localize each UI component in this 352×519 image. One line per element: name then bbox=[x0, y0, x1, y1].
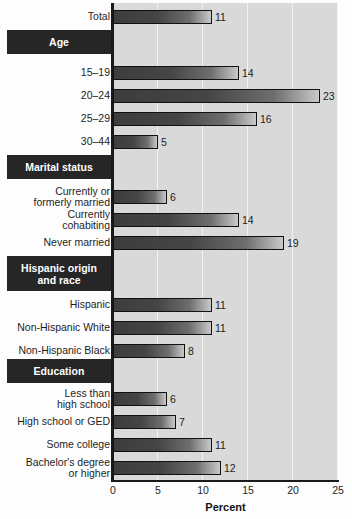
bar bbox=[113, 213, 239, 227]
category-label: Non-Hispanic Black bbox=[0, 345, 110, 357]
bar bbox=[113, 112, 257, 126]
bar-value-label: 12 bbox=[224, 461, 236, 475]
bar-value-label: 16 bbox=[260, 112, 272, 126]
section-header: Hispanic origin and race bbox=[7, 256, 111, 291]
bar-chart: Total11Age15–191420–242325–291630–445Mar… bbox=[0, 0, 352, 519]
bar-value-label: 14 bbox=[242, 66, 254, 80]
x-axis-tick-label: 0 bbox=[110, 484, 116, 496]
bar-value-label: 11 bbox=[215, 298, 226, 312]
category-label: Currently or formerly married bbox=[0, 186, 110, 209]
bar-value-label: 8 bbox=[188, 344, 194, 358]
bar bbox=[113, 461, 221, 475]
bar-value-label: 23 bbox=[323, 89, 335, 103]
category-label: Bachelor's degree or higher bbox=[0, 457, 110, 480]
bar-value-label: 11 bbox=[215, 438, 226, 452]
x-axis-line bbox=[111, 480, 339, 482]
bar bbox=[113, 66, 239, 80]
x-axis-title: Percent bbox=[113, 501, 338, 513]
x-axis-tick-label: 25 bbox=[332, 484, 344, 496]
bar bbox=[113, 236, 284, 250]
category-label: 15–19 bbox=[0, 67, 110, 79]
bar-value-label: 19 bbox=[287, 236, 299, 250]
bar bbox=[113, 321, 212, 335]
bar-value-label: 5 bbox=[161, 135, 167, 149]
x-axis-tick-label: 20 bbox=[287, 484, 299, 496]
category-label: Hispanic bbox=[0, 299, 110, 311]
section-header: Marital status bbox=[7, 155, 111, 179]
x-axis-tick-label: 15 bbox=[242, 484, 254, 496]
bar bbox=[113, 392, 167, 406]
section-header: Education bbox=[7, 359, 111, 383]
category-label: 25–29 bbox=[0, 113, 110, 125]
category-label: 30–44 bbox=[0, 136, 110, 148]
bar bbox=[113, 190, 167, 204]
bar-value-label: 14 bbox=[242, 213, 254, 227]
x-axis-tick-label: 5 bbox=[155, 484, 161, 496]
category-label: Non-Hispanic White bbox=[0, 322, 110, 334]
bar-value-label: 11 bbox=[215, 10, 226, 24]
bar bbox=[113, 344, 185, 358]
bar-value-label: 6 bbox=[170, 392, 176, 406]
bar-value-label: 6 bbox=[170, 190, 176, 204]
section-header: Age bbox=[7, 30, 111, 54]
bar bbox=[113, 438, 212, 452]
category-label: Some college bbox=[0, 439, 110, 451]
gridline bbox=[337, 3, 338, 480]
category-label: Less than high school bbox=[0, 388, 110, 411]
bar bbox=[113, 10, 212, 24]
bar bbox=[113, 89, 320, 103]
x-axis-tick-label: 10 bbox=[197, 484, 209, 496]
category-label: Never married bbox=[0, 237, 110, 249]
category-label: High school or GED bbox=[0, 416, 110, 428]
category-label: Total bbox=[0, 11, 110, 23]
bar bbox=[113, 135, 158, 149]
category-label: 20–24 bbox=[0, 90, 110, 102]
bar bbox=[113, 415, 176, 429]
category-label: Currently cohabiting bbox=[0, 209, 110, 232]
bar-value-label: 7 bbox=[179, 415, 185, 429]
bar-value-label: 11 bbox=[215, 321, 226, 335]
bar bbox=[113, 298, 212, 312]
